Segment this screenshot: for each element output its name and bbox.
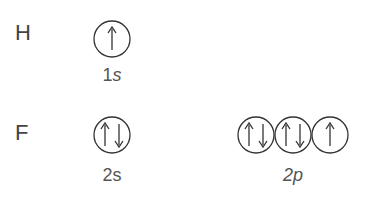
orbital-f-2p-box-1: [238, 117, 274, 153]
spin-down-arrow-icon: [296, 124, 304, 147]
orbital-number: 2: [102, 165, 112, 185]
spin-up-arrow-icon: [101, 123, 109, 146]
spin-up-arrow-icon: [326, 123, 334, 146]
orbital-subshell: p: [293, 165, 303, 185]
orbital-label-h-1s: 1s: [82, 66, 142, 84]
orbital-f-2p-box-2: [275, 117, 311, 153]
spin-down-arrow-icon: [115, 124, 123, 147]
orbital-f-2s-box: [94, 117, 130, 153]
orbital-subshell: s: [113, 165, 122, 185]
orbital-number: 2: [283, 165, 293, 185]
orbital-label-f-2s: 2s: [82, 166, 142, 184]
spin-up-arrow-icon: [282, 123, 290, 146]
spin-up-arrow-icon: [245, 123, 253, 146]
spin-down-arrow-icon: [259, 124, 267, 147]
orbital-number: 1: [102, 65, 112, 85]
orbital-label-f-2p: 2p: [263, 166, 323, 184]
orbital-h-1s-box: [94, 21, 130, 57]
spin-up-arrow-icon: [108, 27, 116, 50]
orbital-diagram: H F: [0, 0, 368, 202]
orbital-subshell: s: [113, 65, 122, 85]
orbital-f-2p-box-3: [312, 117, 348, 153]
